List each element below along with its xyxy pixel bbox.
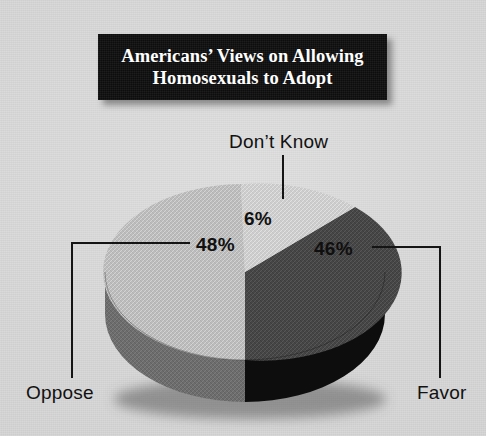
pie-label-favor: Favor	[417, 382, 467, 404]
pie-value-oppose: 48%	[196, 234, 235, 256]
pie-value-dont-know: 6%	[244, 208, 272, 230]
pie-label-oppose: Oppose	[26, 382, 94, 404]
pie-label-dont-know: Don’t Know	[229, 131, 328, 153]
pie-value-favor: 46%	[314, 238, 353, 260]
pie-chart	[0, 0, 486, 436]
chart-page: Americans’ Views on Allowing Homosexuals…	[0, 0, 486, 436]
